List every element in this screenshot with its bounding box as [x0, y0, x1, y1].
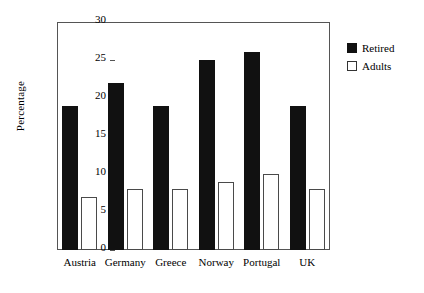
chart-legend: RetiredAdults [347, 40, 421, 76]
x-axis-label: Greece [148, 254, 194, 270]
bar-group [239, 22, 285, 250]
legend-swatch-filled-black-square [347, 43, 357, 53]
x-axis-label: Norway [194, 254, 240, 270]
bar-retired-austria [62, 106, 78, 250]
x-axis-label: Austria [57, 254, 103, 270]
x-axis-label: Germany [103, 254, 149, 270]
x-axis-label: UK [285, 254, 331, 270]
bar-retired-portugal [244, 52, 260, 250]
bar-adults-portugal [263, 174, 279, 250]
y-axis-title: Percentage [14, 46, 26, 166]
bar-group [57, 22, 103, 250]
x-axis-labels: AustriaGermanyGreeceNorwayPortugalUK [57, 254, 330, 274]
legend-swatch-open-white-square [347, 61, 357, 71]
y-tick-mark [110, 250, 115, 251]
legend-label: Retired [362, 42, 394, 54]
bar-group [148, 22, 194, 250]
bar-adults-norway [218, 182, 234, 250]
bar-group [103, 22, 149, 250]
bar-adults-austria [81, 197, 97, 250]
bar-retired-norway [199, 60, 215, 250]
bar-adults-greece [172, 189, 188, 250]
bar-retired-uk [290, 106, 306, 250]
legend-item-adults: Adults [347, 58, 421, 74]
bar-group [285, 22, 331, 250]
bar-adults-uk [309, 189, 325, 250]
bar-chart: Percentage 051015202530 AustriaGermanyGr… [0, 0, 424, 293]
bar-retired-germany [108, 83, 124, 250]
bar-adults-germany [127, 189, 143, 250]
x-axis-label: Portugal [239, 254, 285, 270]
bar-retired-greece [153, 106, 169, 250]
bar-group [194, 22, 240, 250]
legend-item-retired: Retired [347, 40, 421, 56]
legend-label: Adults [362, 60, 391, 72]
bars-layer [57, 22, 330, 250]
